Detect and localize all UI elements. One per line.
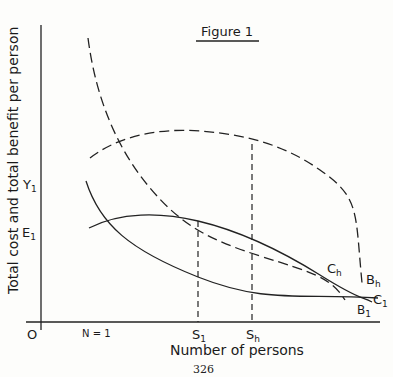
curve-bh [90,130,362,283]
x-axis-label: Number of persons [170,342,304,358]
y-tick-y1: Y1 [22,177,37,194]
label-ch: Ch [327,261,342,278]
y-tick-e1: E1 [22,225,36,242]
label-bh: Bh [366,272,381,289]
label-c1: C1 [373,292,388,309]
page-number: 326 [193,363,214,376]
curve-c1 [86,181,378,298]
figure-1-chart: Figure 1 Total cost and total benefit pe… [0,0,393,377]
curve-ch [88,38,345,300]
label-b1: B1 [357,303,371,319]
chart-title: Figure 1 [201,24,253,39]
curve-b1 [89,215,372,302]
y-axis-label: Total cost and total benefit per person [5,27,21,295]
origin-label: O [27,327,37,342]
x-tick-n1: N = 1 [82,328,111,339]
